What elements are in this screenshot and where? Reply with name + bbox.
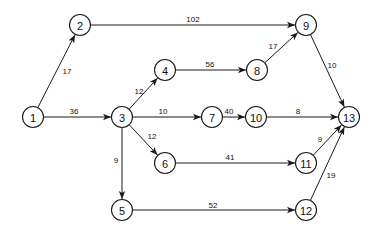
node-4: 4 bbox=[155, 60, 176, 81]
node-5: 5 bbox=[112, 200, 133, 221]
edge-weight-label: 12 bbox=[135, 87, 144, 96]
node-label: 9 bbox=[303, 20, 309, 32]
node-label: 11 bbox=[300, 158, 311, 170]
node-label: 10 bbox=[250, 112, 262, 124]
edge-weight-label: 10 bbox=[328, 61, 337, 70]
node-label: 1 bbox=[30, 112, 36, 124]
edge-1-to-3: 36 bbox=[44, 107, 112, 118]
edge-weight-label: 12 bbox=[148, 132, 157, 141]
edge-3-to-5: 9 bbox=[114, 128, 122, 200]
edge-weight-label: 40 bbox=[225, 107, 234, 116]
edge-6-to-11: 41 bbox=[176, 153, 296, 164]
edge-2-to-9: 102 bbox=[91, 15, 296, 26]
edge-weight-label: 52 bbox=[209, 201, 218, 210]
node-9: 9 bbox=[296, 15, 317, 36]
node-label: 13 bbox=[343, 112, 355, 124]
node-label: 4 bbox=[162, 65, 168, 77]
edge-3-to-7: 10 bbox=[133, 107, 202, 118]
edge-5-to-12: 52 bbox=[133, 201, 296, 211]
edge-weight-label: 8 bbox=[296, 107, 301, 116]
network-diagram: 173610212101295617401084195219 123456789… bbox=[0, 0, 378, 233]
edge-weight-label: 56 bbox=[206, 60, 215, 69]
edge-weight-label: 10 bbox=[159, 107, 168, 116]
edges-layer: 173610212101295617401084195219 bbox=[38, 15, 345, 211]
edge-weight-label: 102 bbox=[186, 15, 200, 24]
edge-3-to-4: 12 bbox=[129, 78, 157, 109]
edge-7-to-10: 40 bbox=[223, 107, 246, 118]
edge-weight-label: 19 bbox=[327, 171, 336, 180]
node-7: 7 bbox=[202, 107, 223, 128]
edge-weight-label: 41 bbox=[226, 153, 235, 162]
edge-11-to-13: 9 bbox=[313, 125, 341, 155]
edge-weight-label: 17 bbox=[269, 42, 278, 51]
node-6: 6 bbox=[155, 153, 176, 174]
edge-4-to-8: 56 bbox=[176, 60, 247, 71]
node-13: 13 bbox=[339, 107, 360, 128]
node-1: 1 bbox=[23, 107, 44, 128]
node-label: 12 bbox=[300, 205, 312, 217]
edge-arrow bbox=[310, 35, 344, 108]
node-label: 3 bbox=[119, 112, 125, 124]
edge-weight-label: 36 bbox=[70, 107, 79, 116]
node-11: 11 bbox=[296, 153, 317, 174]
node-2: 2 bbox=[70, 15, 91, 36]
node-8: 8 bbox=[247, 60, 268, 81]
node-label: 5 bbox=[119, 205, 125, 217]
node-label: 2 bbox=[77, 20, 83, 32]
node-label: 7 bbox=[209, 112, 215, 124]
edge-weight-label: 9 bbox=[318, 135, 323, 144]
edge-8-to-9: 17 bbox=[265, 32, 298, 62]
node-3: 3 bbox=[112, 107, 133, 128]
node-10: 10 bbox=[246, 107, 267, 128]
edge-weight-label: 9 bbox=[114, 156, 119, 165]
node-label: 6 bbox=[162, 158, 168, 170]
edge-weight-label: 17 bbox=[63, 67, 72, 76]
edge-10-to-13: 8 bbox=[267, 107, 339, 118]
edge-3-to-6: 12 bbox=[129, 125, 157, 155]
edge-9-to-13: 10 bbox=[310, 35, 344, 108]
edge-1-to-2: 17 bbox=[38, 35, 75, 108]
node-12: 12 bbox=[296, 200, 317, 221]
node-label: 8 bbox=[254, 65, 260, 77]
